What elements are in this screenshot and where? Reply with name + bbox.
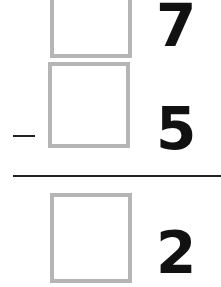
- digit-difference: 2: [156, 224, 196, 282]
- answer-box-middle[interactable]: [48, 62, 130, 148]
- digit-subtrahend: 5: [156, 100, 196, 158]
- answer-box-bottom[interactable]: [50, 193, 132, 283]
- result-line: [13, 175, 221, 177]
- minus-sign: [13, 135, 35, 137]
- answer-box-top[interactable]: [50, 0, 132, 58]
- digit-minuend: 7: [156, 0, 196, 55]
